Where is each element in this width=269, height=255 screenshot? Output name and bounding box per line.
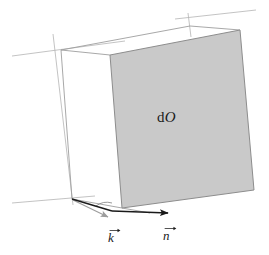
construction-line-right-vertical xyxy=(188,13,191,37)
vector-arrow-accent-n-icon xyxy=(163,226,178,231)
edge-back-vertical-left xyxy=(61,50,72,199)
figure-canvas: dO k n xyxy=(0,0,269,255)
do-label-symbol: O xyxy=(165,109,176,125)
edge-back-top-left xyxy=(61,50,110,55)
edge-back-top-depth-right xyxy=(190,26,240,30)
geometry-diagram-svg xyxy=(0,0,269,255)
do-label: dO xyxy=(157,110,176,125)
vector-arrow-accent-k-icon xyxy=(108,228,122,233)
do-label-prefix: d xyxy=(157,109,165,125)
do-face-polygon xyxy=(110,30,254,208)
wave-vector-label: k xyxy=(108,228,122,244)
normal-vector-label: n xyxy=(163,226,178,242)
normal-vector-shaft xyxy=(112,211,168,213)
construction-line-left-vertical xyxy=(53,34,73,205)
construction-line-top-right-horizontal xyxy=(175,10,256,19)
